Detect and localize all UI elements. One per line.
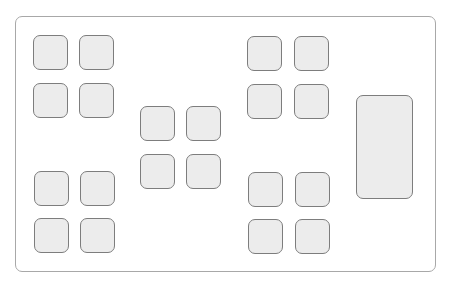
key-tl-4[interactable] bbox=[79, 83, 114, 118]
key-br-4[interactable] bbox=[295, 219, 330, 254]
key-tall-1[interactable] bbox=[356, 95, 413, 199]
key-tl-2[interactable] bbox=[79, 35, 114, 70]
key-tl-1[interactable] bbox=[33, 35, 68, 70]
key-c-1[interactable] bbox=[140, 106, 175, 141]
key-br-3[interactable] bbox=[248, 219, 283, 254]
key-tr-2[interactable] bbox=[294, 36, 329, 71]
key-tl-3[interactable] bbox=[33, 83, 68, 118]
key-c-2[interactable] bbox=[186, 106, 221, 141]
key-br-1[interactable] bbox=[248, 172, 283, 207]
key-tr-3[interactable] bbox=[247, 84, 282, 119]
key-tr-4[interactable] bbox=[294, 84, 329, 119]
key-br-2[interactable] bbox=[295, 172, 330, 207]
key-bl-2[interactable] bbox=[80, 171, 115, 206]
key-bl-4[interactable] bbox=[80, 218, 115, 253]
key-c-4[interactable] bbox=[186, 154, 221, 189]
key-bl-3[interactable] bbox=[34, 218, 69, 253]
key-c-3[interactable] bbox=[140, 154, 175, 189]
key-bl-1[interactable] bbox=[34, 171, 69, 206]
key-tr-1[interactable] bbox=[247, 36, 282, 71]
